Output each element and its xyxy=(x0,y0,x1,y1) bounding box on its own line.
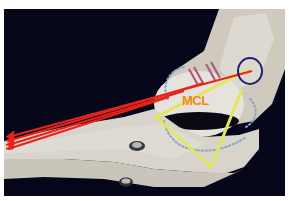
screw-lower xyxy=(119,178,133,187)
elbow-photo xyxy=(4,9,285,196)
mcl-label: MCL xyxy=(182,93,209,108)
screw-upper xyxy=(129,141,145,151)
